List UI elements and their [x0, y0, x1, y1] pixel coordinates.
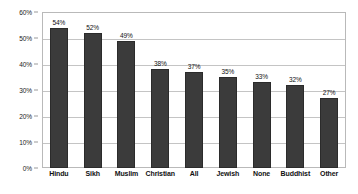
- y-tick-label: 0%: [23, 165, 32, 172]
- y-tick-label: 40%: [19, 61, 32, 68]
- y-tick-label: 50%: [19, 35, 32, 42]
- x-tick-slot: Buddhist: [278, 170, 312, 190]
- gridline: [43, 143, 345, 144]
- y-tick-mark: [34, 12, 38, 13]
- x-tick-slot: None: [245, 170, 279, 190]
- x-tick-label: Buddhist: [278, 170, 312, 177]
- y-tick-label: 60%: [19, 9, 32, 16]
- x-axis: HinduSikhMuslimChristianAllJewishNoneBud…: [42, 170, 346, 190]
- x-tick-label: All: [177, 170, 211, 177]
- bar-chart-figure: 0%10%20%30%40%50%60% 54%52%49%38%37%35%3…: [0, 0, 358, 194]
- x-tick-slot: All: [177, 170, 211, 190]
- gridline: [43, 39, 345, 40]
- x-tick-label: Muslim: [110, 170, 144, 177]
- x-tick-slot: Jewish: [211, 170, 245, 190]
- x-tick-label: Sikh: [76, 170, 110, 177]
- x-tick-label: Hindu: [42, 170, 76, 177]
- gridline: [43, 91, 345, 92]
- y-tick-mark: [34, 142, 38, 143]
- x-tick-label: Christian: [143, 170, 177, 177]
- x-tick-slot: Muslim: [110, 170, 144, 190]
- gridline: [43, 65, 345, 66]
- y-tick-label: 30%: [19, 87, 32, 94]
- x-tick-slot: Sikh: [76, 170, 110, 190]
- y-tick-mark: [34, 38, 38, 39]
- y-axis: 0%10%20%30%40%50%60%: [0, 12, 38, 168]
- y-tick-label: 10%: [19, 139, 32, 146]
- y-tick-mark: [34, 90, 38, 91]
- x-tick-slot: Hindu: [42, 170, 76, 190]
- x-tick-label: Jewish: [211, 170, 245, 177]
- y-tick-mark: [34, 64, 38, 65]
- x-tick-label: None: [245, 170, 279, 177]
- y-tick-label: 20%: [19, 113, 32, 120]
- x-tick-label: Other: [312, 170, 346, 177]
- plot-area: [42, 12, 346, 168]
- gridline: [43, 117, 345, 118]
- y-tick-mark: [34, 168, 38, 169]
- y-tick-mark: [34, 116, 38, 117]
- x-tick-slot: Other: [312, 170, 346, 190]
- x-tick-slot: Christian: [143, 170, 177, 190]
